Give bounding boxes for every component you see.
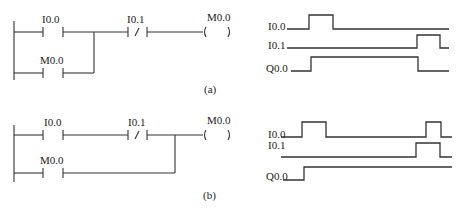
contact-nc-icon [128,27,147,37]
waveform-i0-0 [287,15,449,29]
ladder-diagram-b: I0.0 I0.1 M0.0 M0.0 (b) [14,114,231,202]
contact-label: M0.0 [40,154,64,166]
waveform-i0-1 [287,35,449,48]
coil-icon [205,27,230,37]
contact-nc-icon [128,130,147,140]
waveform-i0-0 [281,122,452,137]
signal-label: I0.1 [268,139,285,151]
waveform-q0-0 [291,57,449,71]
timing-diagram-b: I0.0 I0.1 Q0.0 [266,122,452,182]
contact-no-icon [43,168,63,178]
contact-no-icon [43,130,63,140]
signal-label: I0.1 [268,39,285,51]
waveform-i0-1 [281,143,452,157]
figure-caption: (a) [204,83,217,96]
signal-label: Q0.0 [266,62,288,74]
signal-label: I0.0 [268,20,286,32]
contact-label: I0.0 [44,116,62,128]
waveform-q0-0 [283,167,452,180]
coil-icon [205,130,230,140]
contact-no-icon [43,68,63,78]
ladder-timing-figure: I0.0 I0.1 M0.0 M0.0 (a) I0.0 I0.1 Q0.0 [0,0,462,215]
contact-label: M0.0 [40,54,64,66]
coil-label: M0.0 [207,11,231,23]
ladder-diagram-a: I0.0 I0.1 M0.0 M0.0 (a) [14,11,231,96]
contact-label: I0.1 [128,116,145,128]
contact-label: I0.0 [42,13,60,25]
contact-no-icon [43,27,63,37]
coil-label: M0.0 [207,114,231,126]
contact-label: I0.1 [127,13,144,25]
figure-caption: (b) [203,189,216,202]
timing-diagram-a: I0.0 I0.1 Q0.0 [266,15,449,74]
